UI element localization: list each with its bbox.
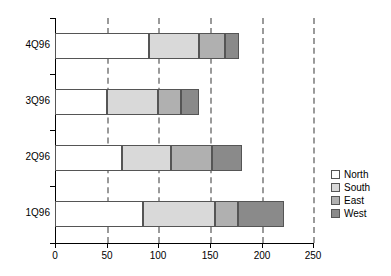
legend-swatch-east xyxy=(331,196,340,205)
x-axis-tick-label: 150 xyxy=(202,250,219,261)
bar-segment-west-2q96 xyxy=(212,145,242,171)
bar-segment-east-4q96 xyxy=(199,33,225,59)
bar-row-1q96 xyxy=(55,201,284,227)
y-axis-tick xyxy=(50,186,55,187)
y-axis-category-label-4q96: 4Q96 xyxy=(26,39,50,50)
x-axis-tick-label: 200 xyxy=(254,250,271,261)
legend-label-west: West xyxy=(344,208,367,219)
x-axis-tick-label: 0 xyxy=(52,250,58,261)
x-axis-line xyxy=(55,243,314,244)
legend-label-south: South xyxy=(344,182,370,193)
legend-label-east: East xyxy=(344,195,364,206)
bar-segment-east-2q96 xyxy=(171,145,212,171)
legend-label-north: North xyxy=(344,169,368,180)
bar-segment-north-1q96 xyxy=(55,201,143,227)
legend-item-west: West xyxy=(331,207,391,220)
gridline-250 xyxy=(313,18,315,243)
y-axis-category-label-1q96: 1Q96 xyxy=(26,207,50,218)
bar-segment-north-2q96 xyxy=(55,145,122,171)
bar-row-3q96 xyxy=(55,89,199,115)
legend-item-east: East xyxy=(331,194,391,207)
bar-row-4q96 xyxy=(55,33,239,59)
legend-item-north: North xyxy=(331,168,391,181)
y-axis-category-label-2q96: 2Q96 xyxy=(26,151,50,162)
x-axis-tick xyxy=(158,243,159,248)
bar-segment-west-1q96 xyxy=(238,201,284,227)
legend: North South East West xyxy=(331,168,391,220)
bar-segment-north-3q96 xyxy=(55,89,107,115)
y-axis-tick xyxy=(50,74,55,75)
bar-segment-north-4q96 xyxy=(55,33,149,59)
y-axis-tick xyxy=(50,18,55,19)
x-axis-tick xyxy=(210,243,211,248)
bar-segment-south-1q96 xyxy=(143,201,215,227)
y-axis-category-label-3q96: 3Q96 xyxy=(26,95,50,106)
legend-item-south: South xyxy=(331,181,391,194)
bar-segment-east-1q96 xyxy=(215,201,238,227)
bar-segment-west-4q96 xyxy=(225,33,238,59)
x-axis-tick xyxy=(107,243,108,248)
legend-swatch-south xyxy=(331,183,340,192)
bar-segment-south-4q96 xyxy=(149,33,200,59)
x-axis-tick xyxy=(262,243,263,248)
bar-row-2q96 xyxy=(55,145,242,171)
x-axis-tick-label: 100 xyxy=(150,250,167,261)
legend-swatch-north xyxy=(331,170,340,179)
bar-segment-south-3q96 xyxy=(107,89,159,115)
stacked-bar-chart: 0 50 100 150 200 250 4Q96 3Q96 2Q96 1Q96… xyxy=(0,0,391,276)
x-axis-tick-label: 50 xyxy=(101,250,112,261)
bar-segment-south-2q96 xyxy=(122,145,171,171)
bar-segment-east-3q96 xyxy=(158,89,181,115)
legend-swatch-west xyxy=(331,209,340,218)
y-axis-tick xyxy=(50,130,55,131)
x-axis-tick xyxy=(55,243,56,248)
x-axis-tick-label: 250 xyxy=(305,250,322,261)
x-axis-tick xyxy=(313,243,314,248)
bar-segment-west-3q96 xyxy=(181,89,200,115)
